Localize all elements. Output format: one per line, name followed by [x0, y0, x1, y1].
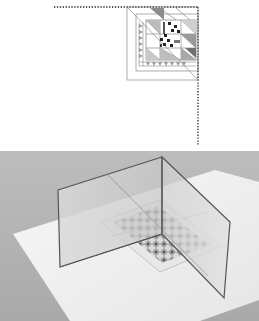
shaded-patches	[139, 8, 196, 66]
figure	[0, 0, 259, 321]
quilt-drawing	[0, 0, 259, 151]
mirror-photo	[0, 151, 259, 321]
